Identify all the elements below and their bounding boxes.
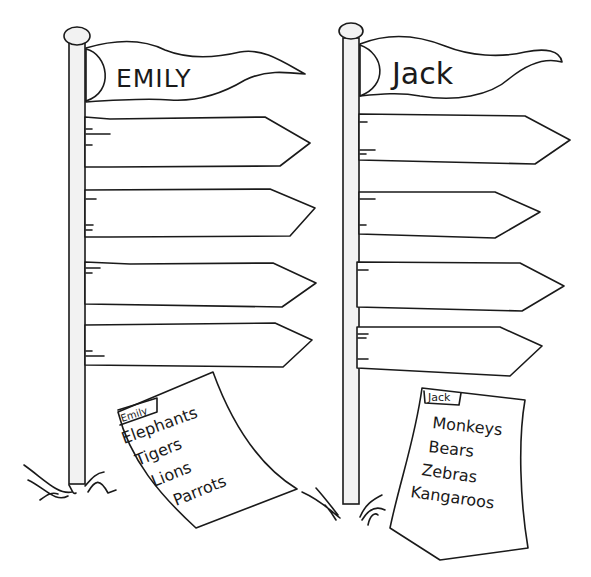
- animal-list-emily: Emily Elephants Tigers Lions Parrots: [118, 372, 297, 528]
- pole-cap: [64, 27, 90, 45]
- arrow-sign-3[interactable]: [357, 262, 564, 311]
- pole: [69, 42, 85, 484]
- animal-list-jack: Jack Monkeys Bears Zebras Kangaroos: [390, 388, 528, 560]
- flag-name-text: EMILY: [116, 64, 192, 93]
- arrow-sign-1[interactable]: [359, 114, 570, 164]
- arrow-sign-1[interactable]: [85, 117, 310, 167]
- arrow-sign-3[interactable]: [85, 262, 316, 307]
- list-tab-label: Jack: [427, 391, 451, 404]
- arrow-sign-4[interactable]: [357, 327, 542, 376]
- worksheet-canvas: EMILY Emily Elephants Tigers Lions Parro…: [0, 0, 591, 577]
- name-flag: [360, 37, 562, 99]
- arrow-sign-4[interactable]: [85, 323, 312, 367]
- flag-name-text: Jack: [390, 56, 454, 91]
- pole-cap: [339, 23, 363, 39]
- arrow-sign-2[interactable]: [359, 192, 540, 238]
- arrow-sign-2[interactable]: [85, 189, 315, 237]
